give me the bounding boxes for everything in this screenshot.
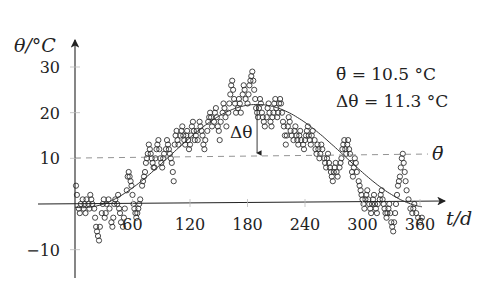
x-tick-label: 120 <box>175 215 206 234</box>
data-point <box>171 179 176 184</box>
amplitude-annotation: Δθ = 11.3 °C <box>336 91 448 111</box>
y-axis-label: θ/°C <box>14 34 56 56</box>
data-point <box>205 128 210 133</box>
data-point <box>403 179 408 184</box>
data-point <box>107 206 112 211</box>
data-point <box>97 224 102 229</box>
data-point <box>93 215 98 220</box>
data-point <box>283 142 288 147</box>
data-point <box>73 183 78 188</box>
x-tick-label: 300 <box>347 215 378 234</box>
data-point <box>218 119 223 124</box>
data-point <box>83 211 88 216</box>
y-tick-label: 10 <box>40 149 60 168</box>
data-point <box>170 169 175 174</box>
data-point <box>279 110 284 115</box>
data-point <box>203 138 208 143</box>
data-point <box>401 160 406 165</box>
x-axis <box>38 201 445 204</box>
data-point <box>246 92 251 97</box>
x-tick-label: 240 <box>290 215 321 234</box>
fit-curve <box>75 104 422 207</box>
y-tick-label: 20 <box>40 104 60 123</box>
data-point <box>111 215 116 220</box>
y-axis-ticks: −10102030 <box>26 58 80 260</box>
delta-theta-label: Δθ <box>230 122 253 142</box>
data-point <box>130 192 135 197</box>
data-point <box>227 101 232 106</box>
data-point <box>402 169 407 174</box>
y-tick-label: −10 <box>26 241 60 260</box>
mean-annotation: θ̄ = 10.5 °C <box>336 64 436 84</box>
x-axis-label: t/d <box>446 207 472 229</box>
data-point <box>224 124 229 129</box>
y-tick-label: 30 <box>40 58 60 77</box>
data-point <box>252 87 257 92</box>
mean-line <box>75 154 428 158</box>
data-point <box>404 188 409 193</box>
x-tick-label: 60 <box>122 215 142 234</box>
mean-line-label: θ̄ <box>432 142 444 164</box>
x-tick-label: 360 <box>405 215 436 234</box>
data-point <box>122 206 127 211</box>
temperature-scatter-chart: 60120180240300360 −10102030 θ/°C t/d θ̄ … <box>0 0 499 291</box>
x-tick-label: 180 <box>232 215 263 234</box>
data-point <box>231 87 236 92</box>
data-point <box>217 138 222 143</box>
data-point <box>393 201 398 206</box>
